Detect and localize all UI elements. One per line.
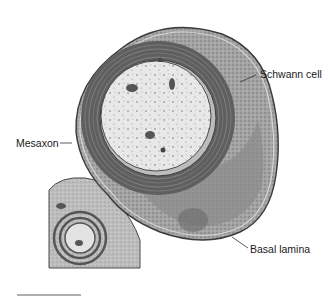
label-schwann-cell: Schwann cell <box>260 69 322 80</box>
label-mesaxon: Mesaxon <box>16 138 59 149</box>
label-basal-lamina: Basal lamina <box>250 244 310 255</box>
scale-bar <box>17 294 81 296</box>
nerve-fiber-diagram: Schwann cell Mesaxon Basal lamina <box>0 0 333 302</box>
basal-lamina-pointer <box>232 237 248 248</box>
myelinated-axon-illustration <box>0 0 333 302</box>
